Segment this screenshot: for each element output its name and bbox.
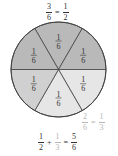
fraction-2-6: 2 6 [82,113,88,132]
fraction-1-2: 1 2 [63,3,69,22]
sector-numerator: 1 [57,33,61,42]
plus-sign: + [47,139,52,147]
equation-three-sixths-equals-one-half: 3 6 = 1 2 [45,3,70,22]
sector-numerator: 1 [32,47,36,56]
sector-numerator: 1 [32,75,36,84]
fraction-1-3: 1 3 [55,133,61,152]
equation-two-sixths-equals-one-third: 2 6 = 1 3 [81,113,106,132]
equals-sign: = [55,9,60,17]
sector-numerator: 1 [57,90,61,99]
sector-numerator: 1 [81,47,85,56]
sector-denominator: 6 [57,42,61,51]
fraction-5-6: 5 6 [71,133,77,152]
sector-denominator: 6 [81,84,85,93]
equals-sign: = [64,139,69,147]
fraction-3-6: 3 6 [46,3,52,22]
sector-numerator: 1 [81,75,85,84]
equals-sign: = [91,119,96,127]
sector-denominator: 6 [32,84,36,93]
sector-denominator: 6 [57,99,61,108]
sector-denominator: 6 [81,56,85,65]
equation-sum-five-sixths: 1 2 + 1 3 = 5 6 [37,133,78,152]
sector-denominator: 6 [32,56,36,65]
fraction-1-3: 1 3 [99,113,105,132]
fraction-1-2: 1 2 [38,133,44,152]
